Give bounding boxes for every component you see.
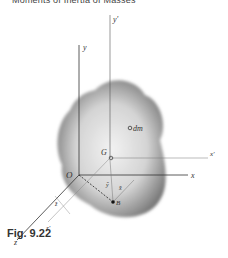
mass-element-label: dm <box>133 124 143 133</box>
y-prime-axis-label: y' <box>112 15 119 24</box>
centroid-label: G <box>101 148 107 157</box>
rigid-body-diagram: y y' x x' z z' O G dm B ȳ x̄ z̄ <box>0 0 228 258</box>
figure-caption: Fig. 9.22 <box>7 227 51 239</box>
z-bar-label: z̄ <box>54 201 58 207</box>
point-b-label: B <box>116 199 121 207</box>
y-axis-label: y <box>82 43 87 52</box>
origin-label: O <box>66 170 73 180</box>
point-b-marker <box>111 200 115 204</box>
x-bar-label: x̄ <box>118 185 122 191</box>
y-bar-label: ȳ <box>105 182 109 188</box>
rigid-body-shape <box>57 80 165 217</box>
x-axis-label: x <box>190 171 195 180</box>
x-prime-axis-label: x' <box>209 150 215 158</box>
